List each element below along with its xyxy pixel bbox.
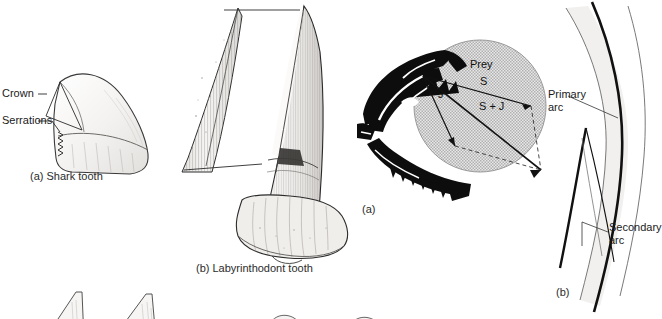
labyrinthodont-root-base (236, 195, 347, 264)
vector-s-plus-j-label: S + J (479, 100, 504, 112)
primary-arc-label-line2: arc (548, 101, 563, 113)
secondary-arc-label-line1: Secondary (609, 221, 662, 233)
vector-s-label: S (480, 75, 487, 87)
arc-secondary (560, 128, 586, 268)
bottom-strip-drawing (0, 286, 660, 319)
bottom-tooth-2 (112, 294, 156, 319)
bottom-tooth-1 (44, 292, 84, 319)
labyrinthodont-fang-left (182, 8, 242, 172)
primary-arc-label-line1: Primary (548, 88, 586, 100)
labyrinthodont-caption: (b) Labyrinthodont tooth (196, 262, 313, 274)
crown-label: Crown (2, 87, 34, 99)
labyrinthodont-fang-right (266, 6, 323, 222)
prey-label: Prey (470, 58, 493, 70)
bottom-tooth-4 (268, 315, 302, 319)
jaw-panel-tag: (a) (362, 203, 375, 215)
serrations-label: Serrations (2, 114, 52, 126)
arc-secondary-thin (582, 138, 602, 256)
arc-diagram (530, 0, 660, 319)
tooth-body (54, 74, 148, 174)
vector-j-label: J (438, 88, 444, 100)
secondary-arc-label-line2: arc (609, 234, 624, 246)
arc-band-fill (566, 6, 628, 306)
labyrinthodont-tooth-drawing (168, 0, 368, 280)
shark-tooth-caption: (a) Shark tooth (30, 170, 103, 182)
bottom-strip (0, 286, 660, 319)
